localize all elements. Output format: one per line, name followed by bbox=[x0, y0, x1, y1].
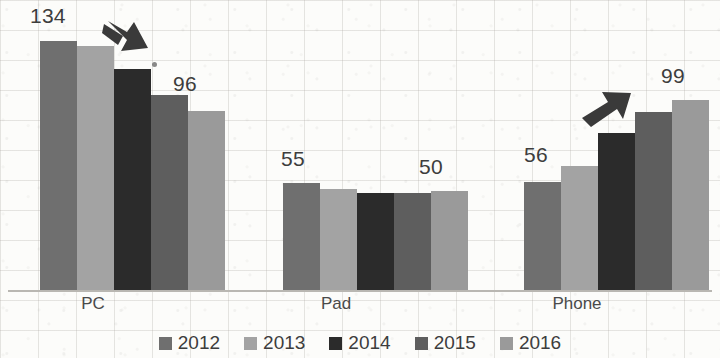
legend-label-2016: 2016 bbox=[519, 332, 561, 354]
bar-phone-2014 bbox=[598, 133, 635, 290]
legend-label-2012: 2012 bbox=[178, 332, 220, 354]
legend-item-2015[interactable]: 2015 bbox=[415, 332, 476, 354]
legend-swatch-2015 bbox=[415, 337, 428, 350]
legend-item-2012[interactable]: 2012 bbox=[159, 332, 220, 354]
chart-legend: 2012 2013 2014 2015 2016 bbox=[0, 332, 720, 354]
data-label-phone-2016: 99 bbox=[661, 64, 685, 88]
legend-swatch-2012 bbox=[159, 337, 172, 350]
data-label-pc-2012: 134 bbox=[30, 4, 66, 28]
bar-group-pad bbox=[283, 183, 468, 290]
bar-pc-2015 bbox=[151, 95, 188, 290]
bar-phone-2016 bbox=[672, 100, 709, 290]
legend-item-2016[interactable]: 2016 bbox=[500, 332, 561, 354]
bar-phone-2013 bbox=[561, 166, 598, 290]
bar-pad-2013 bbox=[320, 189, 357, 290]
data-label-phone-2012: 56 bbox=[524, 143, 548, 167]
bar-pc-2013 bbox=[77, 46, 114, 290]
bar-phone-2012 bbox=[524, 182, 561, 290]
bar-chart: 134 96 55 50 56 99 PC Pad Phone 2012 201… bbox=[0, 0, 720, 358]
legend-swatch-2016 bbox=[500, 337, 513, 350]
legend-label-2015: 2015 bbox=[434, 332, 476, 354]
data-label-pad-2012: 55 bbox=[281, 147, 305, 171]
category-label-phone: Phone bbox=[517, 294, 637, 314]
legend-swatch-2013 bbox=[244, 337, 257, 350]
scan-speck bbox=[152, 62, 157, 67]
category-label-pad: Pad bbox=[276, 294, 396, 314]
phone-growth-arrow-icon bbox=[581, 88, 639, 136]
bar-pc-2014 bbox=[114, 69, 151, 290]
bar-pad-2015 bbox=[394, 193, 431, 290]
legend-item-2014[interactable]: 2014 bbox=[329, 332, 390, 354]
data-label-pc-2016: 96 bbox=[173, 72, 197, 96]
data-label-pad-2016: 50 bbox=[419, 155, 443, 179]
bar-pad-2012 bbox=[283, 183, 320, 290]
legend-swatch-2014 bbox=[329, 337, 342, 350]
legend-label-2013: 2013 bbox=[263, 332, 305, 354]
bar-phone-2015 bbox=[635, 112, 672, 290]
bar-pc-2016 bbox=[188, 111, 225, 290]
bar-pad-2016 bbox=[431, 191, 468, 290]
legend-item-2013[interactable]: 2013 bbox=[244, 332, 305, 354]
bar-pc-2012 bbox=[40, 41, 77, 290]
x-axis-baseline bbox=[8, 290, 712, 292]
legend-label-2014: 2014 bbox=[348, 332, 390, 354]
bar-group-pc bbox=[40, 41, 225, 290]
bar-pad-2014 bbox=[357, 193, 394, 290]
category-label-pc: PC bbox=[33, 294, 153, 314]
